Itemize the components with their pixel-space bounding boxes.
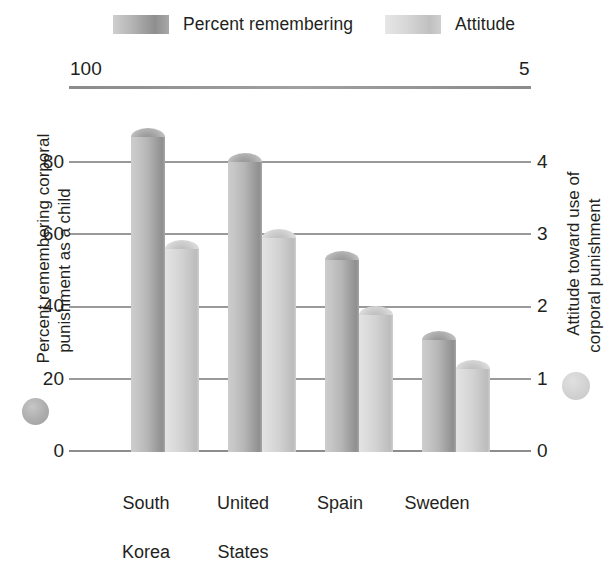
category-label-south-korea: South Korea bbox=[96, 467, 196, 562]
bar-united-states-attitude bbox=[262, 229, 296, 452]
right-tick-0: 0 bbox=[537, 440, 577, 462]
category-label-united-states: United States bbox=[193, 467, 293, 562]
bar-south-korea-percent bbox=[131, 128, 165, 452]
left-axis-marker-dot-icon bbox=[22, 398, 49, 425]
legend-item-attitude: Attitude bbox=[385, 14, 515, 35]
plot-area bbox=[69, 114, 531, 452]
bar-spain-percent bbox=[325, 251, 359, 452]
bar-sweden-percent bbox=[422, 331, 456, 452]
bar-body bbox=[131, 137, 165, 452]
bar-sweden-attitude bbox=[456, 360, 490, 452]
attitude-swatch-icon bbox=[385, 15, 441, 34]
left-axis-title-line2: punishment as a child bbox=[54, 138, 75, 404]
legend-label-attitude: Attitude bbox=[455, 14, 515, 35]
bar-spain-attitude bbox=[359, 306, 393, 452]
right-axis-title-line2: corporal punishment bbox=[584, 143, 605, 409]
bar-body bbox=[228, 162, 262, 452]
right-axis-title-line1: Attitude toward use of bbox=[563, 121, 584, 387]
category-label-sweden: Sweden bbox=[387, 467, 487, 540]
legend-label-percent-remembering: Percent remembering bbox=[183, 14, 353, 35]
left-axis-title-line1: Percent remembering corporal bbox=[33, 116, 54, 382]
category-line-2: States bbox=[193, 540, 293, 562]
bar-united-states-percent bbox=[228, 153, 262, 452]
percent-swatch-icon bbox=[113, 15, 169, 34]
bar-south-korea-attitude bbox=[165, 240, 199, 452]
category-line-1: Spain bbox=[290, 491, 390, 515]
left-tick-0: 0 bbox=[24, 440, 64, 462]
left-axis-top-tick-100: 100 bbox=[70, 58, 102, 80]
category-line-2: Korea bbox=[96, 540, 196, 562]
category-label-spain: Spain bbox=[290, 467, 390, 540]
category-line-1: Sweden bbox=[387, 491, 487, 515]
top-gridline-rule bbox=[69, 86, 531, 89]
category-line-1: South bbox=[96, 491, 196, 515]
category-line-1: United bbox=[193, 491, 293, 515]
bar-body bbox=[359, 315, 393, 452]
bar-body bbox=[325, 260, 359, 452]
right-axis-top-tick-5: 5 bbox=[519, 58, 530, 80]
right-axis-marker-dot-icon bbox=[562, 372, 590, 400]
bar-body bbox=[165, 249, 199, 452]
bar-body bbox=[456, 369, 490, 452]
legend-item-percent-remembering: Percent remembering bbox=[113, 14, 353, 35]
bar-body bbox=[422, 340, 456, 452]
bar-body bbox=[262, 238, 296, 452]
